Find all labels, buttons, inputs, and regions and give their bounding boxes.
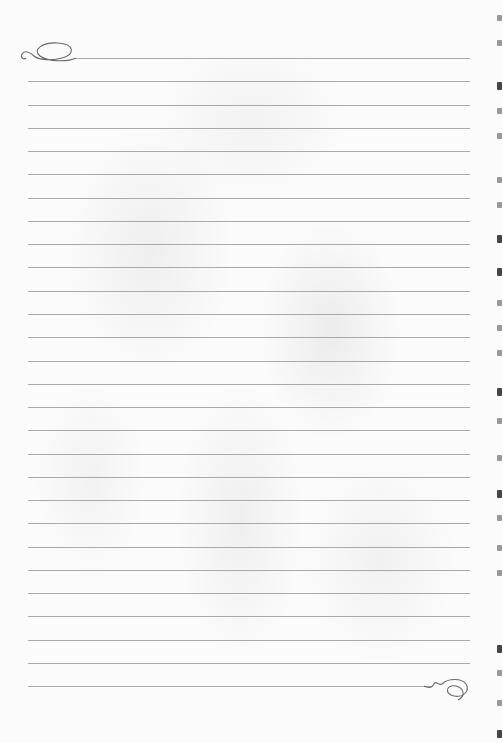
cropped-glyph-fragment: [497, 268, 502, 276]
writing-line: [28, 198, 470, 199]
writing-line: [28, 244, 470, 245]
cropped-glyph-fragment: [497, 202, 502, 208]
writing-line: [28, 454, 470, 455]
cropped-glyph-fragment: [497, 40, 502, 46]
cropped-glyph-fragment: [497, 418, 502, 424]
bottom-right-flourish-icon: [420, 668, 472, 704]
writing-line: [28, 291, 470, 292]
lined-paper-page: [0, 0, 503, 743]
cropped-glyph-fragment: [497, 515, 502, 521]
cropped-glyph-fragment: [497, 388, 502, 396]
cropped-glyph-fragment: [497, 235, 502, 243]
cropped-glyph-fragment: [497, 82, 502, 90]
writing-line: [28, 361, 470, 362]
writing-line: [28, 151, 470, 152]
writing-line: [28, 570, 470, 571]
cropped-glyph-fragment: [497, 133, 502, 139]
writing-line: [28, 105, 470, 106]
cropped-glyph-fragment: [497, 15, 502, 21]
writing-line: [28, 500, 470, 501]
writing-line: [28, 174, 470, 175]
writing-line: [28, 384, 470, 385]
cropped-glyph-fragment: [497, 670, 502, 676]
cropped-glyph-fragment: [497, 300, 502, 306]
writing-line: [28, 616, 470, 617]
writing-line: [28, 663, 470, 664]
cropped-glyph-fragment: [497, 645, 502, 653]
writing-line: [28, 221, 470, 222]
cropped-glyph-fragment: [497, 325, 502, 331]
writing-line: [28, 477, 470, 478]
cropped-glyph-fragment: [497, 570, 502, 576]
writing-line: [28, 314, 470, 315]
writing-line: [28, 81, 470, 82]
writing-line: [28, 593, 470, 594]
writing-line: [28, 337, 470, 338]
writing-line: [28, 523, 470, 524]
writing-line: [28, 407, 470, 408]
cropped-glyph-fragment: [497, 730, 502, 738]
cropped-glyph-fragment: [497, 490, 502, 498]
writing-line: [28, 640, 470, 641]
cropped-glyph-fragment: [497, 350, 502, 356]
cropped-glyph-fragment: [497, 545, 502, 551]
cropped-glyph-fragment: [497, 700, 502, 706]
top-left-flourish-icon: [18, 38, 88, 66]
writing-line: [28, 547, 470, 548]
cropped-glyph-fragment: [497, 177, 502, 183]
writing-line: [28, 430, 470, 431]
writing-line: [28, 267, 470, 268]
writing-line: [28, 686, 432, 687]
cropped-glyph-fragment: [497, 108, 502, 114]
cropped-glyph-fragment: [497, 455, 502, 461]
writing-line: [28, 128, 470, 129]
writing-line: [76, 58, 470, 59]
